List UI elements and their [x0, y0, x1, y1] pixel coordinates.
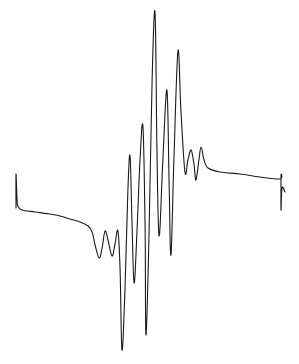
trace-layer	[16, 11, 285, 351]
series-line-spectrum	[16, 11, 285, 351]
spectrum-chart	[0, 0, 299, 364]
